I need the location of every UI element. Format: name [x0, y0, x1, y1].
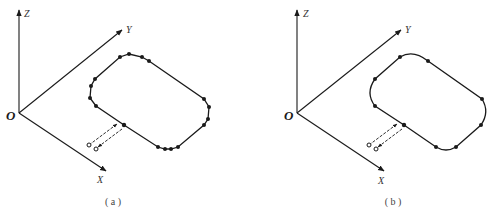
teach-point — [169, 147, 173, 151]
approach-start-point — [87, 143, 91, 147]
teach-point — [93, 77, 97, 81]
approach-arrow — [89, 124, 117, 145]
origin-label: O — [284, 108, 294, 123]
teach-points-a — [88, 52, 211, 151]
teach-point — [207, 105, 211, 109]
approach-retract-a — [87, 124, 122, 151]
teach-point — [118, 55, 122, 59]
tool-path-a — [87, 52, 211, 151]
z-axis-label: Z — [303, 8, 309, 19]
teach-point — [88, 96, 92, 100]
teach-point — [89, 84, 93, 88]
axes-a: Z Y X O — [6, 8, 133, 185]
figure-canvas: Z Y X O — [0, 0, 496, 216]
origin-label: O — [6, 108, 16, 123]
retract-end-point — [94, 147, 98, 151]
panel-a: Z Y X O — [6, 8, 211, 208]
teach-point — [398, 55, 402, 59]
caption-b: ( b ) — [385, 196, 402, 208]
teach-point — [94, 104, 98, 108]
teach-points-b — [373, 55, 484, 149]
y-axis-label: Y — [405, 24, 412, 35]
teach-point — [127, 52, 131, 56]
rounded-rectangle-path — [370, 54, 486, 150]
x-axis — [297, 113, 384, 171]
x-axis-label: X — [377, 175, 385, 186]
teach-point — [426, 59, 430, 63]
retract-end-point — [374, 147, 378, 151]
teach-point — [202, 97, 206, 101]
teach-point — [163, 147, 167, 151]
retract-arrow — [378, 129, 402, 147]
teach-point — [454, 145, 458, 149]
teach-point — [479, 123, 483, 127]
y-axis-label: Y — [126, 24, 133, 35]
caption-a: ( a ) — [105, 196, 121, 208]
teach-point — [434, 145, 438, 149]
approach-arrow — [369, 124, 397, 145]
y-axis — [19, 30, 122, 113]
teach-point — [480, 97, 484, 101]
x-axis-label: X — [96, 174, 104, 185]
start-point — [402, 123, 406, 127]
teach-point — [202, 123, 206, 127]
rounded-rectangle-path — [90, 54, 209, 149]
teach-point — [140, 55, 144, 59]
z-axis-label: Z — [24, 8, 30, 19]
approach-retract-b — [367, 124, 402, 151]
teach-point — [147, 59, 151, 63]
y-axis — [297, 30, 401, 113]
start-point — [122, 123, 126, 127]
retract-arrow — [98, 129, 122, 147]
panel-b: Z Y X O ( — [284, 8, 486, 208]
teach-point — [176, 145, 180, 149]
axes-b: Z Y X O — [284, 8, 412, 186]
tool-path-b — [367, 54, 486, 151]
teach-point — [373, 77, 377, 81]
teach-point — [373, 104, 377, 108]
teach-point — [156, 145, 160, 149]
approach-start-point — [367, 143, 371, 147]
teach-point — [206, 117, 210, 121]
